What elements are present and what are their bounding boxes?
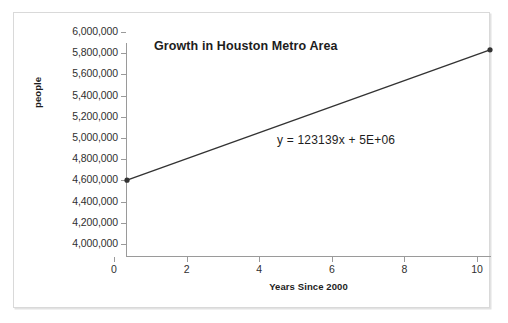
series-line <box>127 50 490 180</box>
chart-frame: Growth in Houston Metro Area people 6,00… <box>13 12 490 308</box>
series-data-point <box>124 178 129 183</box>
series-plot <box>14 13 508 323</box>
series-data-point <box>487 47 492 52</box>
